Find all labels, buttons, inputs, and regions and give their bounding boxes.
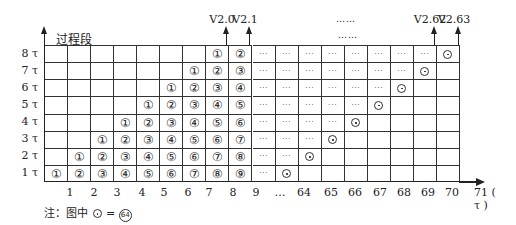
grid-cell: ⑦: [183, 165, 206, 182]
grid-cell: ③: [206, 79, 229, 96]
stage-number: ③: [97, 167, 108, 181]
ellipsis: ···: [305, 134, 314, 143]
ellipsis: ···: [282, 151, 291, 160]
grid-cell: ④: [229, 79, 252, 96]
ellipsis: ···: [259, 83, 268, 92]
stage-number: ①: [74, 150, 85, 164]
stage-number: ⑥: [235, 116, 246, 130]
ellipsis: ···: [259, 49, 268, 58]
grid-cell: ⑤: [229, 96, 252, 113]
stage-number: ⑤: [166, 150, 177, 164]
grid-cell: [322, 148, 345, 165]
ellipsis: ···: [397, 66, 406, 75]
grid-cell: ···: [322, 114, 345, 131]
grid-cell: ④: [206, 96, 229, 113]
stage-number: ②: [74, 167, 85, 181]
grid-cell: ③: [114, 148, 137, 165]
x-axis-arrow-icon: [476, 178, 485, 186]
top-ellipsis: ……: [336, 14, 356, 24]
ellipsis: ···: [374, 66, 383, 75]
grid-cell: ···: [253, 96, 276, 113]
y-axis-label: 6 τ: [0, 81, 38, 94]
y-axis-label: 7 τ: [0, 64, 38, 77]
grid-cell: ···: [253, 148, 276, 165]
stage-number: ④: [212, 98, 223, 112]
grid-cell: ③: [91, 165, 114, 182]
grid-cell: ···: [299, 62, 322, 79]
ellipsis: ···: [282, 66, 291, 75]
ellipsis: ···: [305, 117, 314, 126]
grid-cell: [114, 96, 137, 113]
ellipsis: ···: [259, 134, 268, 143]
stage-number: ①: [212, 47, 223, 61]
y-axis-label: 4 τ: [0, 115, 38, 128]
ellipsis: ···: [351, 49, 360, 58]
x-axis-label: 66: [348, 186, 362, 199]
grid-cell: [45, 114, 68, 131]
grid-cell: [391, 131, 414, 148]
grid-cell: [414, 79, 437, 96]
grid-cell: [45, 45, 68, 62]
x-axis-label: 65: [324, 186, 338, 199]
grid-cell: [345, 148, 368, 165]
ellipsis: ···: [374, 49, 383, 58]
grid-cell: ①: [45, 165, 68, 182]
y-axis-label: 3 τ: [0, 132, 38, 145]
stage-number: ③: [120, 150, 131, 164]
stage-number: ⑤: [189, 133, 200, 147]
grid-cell: ···: [253, 114, 276, 131]
dot-circle-icon: [328, 135, 337, 144]
stage-number: ②: [97, 150, 108, 164]
grid-cell: ⑦: [229, 131, 252, 148]
grid-cell: [368, 131, 391, 148]
grid-cell: [91, 114, 114, 131]
grid-cell: ···: [276, 96, 299, 113]
grid-cell: [91, 79, 114, 96]
grid-cell: ⑧: [206, 165, 229, 182]
grid-cell: [437, 131, 460, 148]
ellipsis: ···: [259, 66, 268, 75]
grid-cell: ①: [183, 62, 206, 79]
pipeline-grid: ①②························①②③···········…: [44, 45, 459, 182]
grid-cell: [391, 114, 414, 131]
grid-cell: ⑨: [229, 165, 252, 182]
grid-cell: [68, 62, 91, 79]
grid-cell: ···: [253, 165, 276, 182]
dot-circle-icon: [305, 152, 314, 161]
grid-cell: ···: [322, 79, 345, 96]
version-label: V2.1: [232, 13, 257, 26]
grid-cell: ③: [137, 131, 160, 148]
grid-cell: ①: [68, 148, 91, 165]
grid-cell: [91, 96, 114, 113]
grid-cell: ···: [345, 45, 368, 62]
grid-cell: [114, 79, 137, 96]
grid-cell: [368, 96, 391, 113]
stage-number: ②: [189, 81, 200, 95]
stage-number: ⑥: [212, 133, 223, 147]
stage-number: ②: [143, 116, 154, 130]
grid-cell: ⑤: [183, 131, 206, 148]
stage-number: ①: [120, 116, 131, 130]
grid-cell: ···: [391, 45, 414, 62]
grid-cell: [437, 114, 460, 131]
grid-cell: ···: [253, 45, 276, 62]
grid-cell: [391, 96, 414, 113]
grid-cell: ④: [137, 148, 160, 165]
grid-cell: [322, 165, 345, 182]
grid-cell: [45, 131, 68, 148]
y-axis-label: 1 τ: [0, 166, 38, 179]
note: 注：图中 = 64: [44, 204, 132, 222]
ellipsis: ···: [351, 83, 360, 92]
ellipsis: ···: [420, 49, 429, 58]
ellipsis: ···: [282, 83, 291, 92]
stage-number: ⑦: [235, 133, 246, 147]
x-axis-label: 6: [185, 186, 192, 199]
version-label: V2.0: [209, 13, 234, 26]
x-axis-label: 68: [397, 186, 411, 199]
grid-cell: ②: [229, 45, 252, 62]
grid-cell: [368, 114, 391, 131]
grid-cell: [114, 62, 137, 79]
grid-cell: [299, 165, 322, 182]
grid-cell: [45, 96, 68, 113]
grid-cell: ②: [91, 148, 114, 165]
